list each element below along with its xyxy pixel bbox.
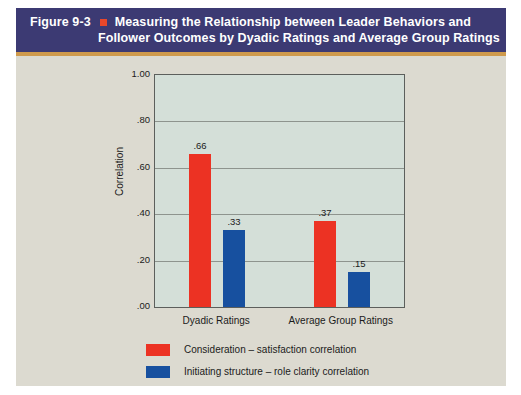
bar-value-label: .66 xyxy=(183,141,217,151)
y-axis-tick-label: .20 xyxy=(110,255,150,265)
legend-label: Consideration – satisfaction correlation xyxy=(184,344,356,356)
x-axis-category-label: Dyadic Ratings xyxy=(146,315,286,327)
bar xyxy=(348,272,370,307)
figure-header-line-2: Follower Outcomes by Dyadic Ratings and … xyxy=(30,30,494,46)
chart-area: Correlation 1.00.80.60.40.20.00 .66.33.3… xyxy=(16,56,506,386)
bar xyxy=(223,230,245,307)
square-bullet-icon xyxy=(100,19,107,26)
legend-item: Consideration – satisfaction correlation xyxy=(146,341,476,359)
figure-root: Figure 9-3 Measuring the Relationship be… xyxy=(0,0,521,395)
y-axis-tick-label: 1.00 xyxy=(110,69,150,79)
y-axis-tick-label: .40 xyxy=(110,208,150,218)
y-axis-tick-labels: 1.00.80.60.40.20.00 xyxy=(106,74,150,308)
legend-item: Initiating structure – role clarity corr… xyxy=(146,363,476,381)
figure-number: Figure 9-3 xyxy=(30,14,91,30)
plot-area: .66.33.37.15 xyxy=(154,74,405,308)
gridline xyxy=(155,121,404,122)
y-axis-tick-label: .00 xyxy=(110,301,150,311)
legend-swatch xyxy=(146,344,170,356)
bar-value-label: .37 xyxy=(308,208,342,218)
figure-title-line-2: Follower Outcomes by Dyadic Ratings and … xyxy=(98,31,500,45)
figure-title-line-1: Measuring the Relationship between Leade… xyxy=(115,14,471,30)
bar xyxy=(314,221,336,307)
chart-legend: Consideration – satisfaction correlation… xyxy=(146,341,476,385)
bar-value-label: .15 xyxy=(342,259,376,269)
legend-swatch xyxy=(146,366,170,378)
y-axis-tick-label: .60 xyxy=(110,162,150,172)
bar xyxy=(189,154,211,307)
x-axis-category-label: Average Group Ratings xyxy=(271,315,411,327)
figure-card: Figure 9-3 Measuring the Relationship be… xyxy=(16,8,506,386)
legend-label: Initiating structure – role clarity corr… xyxy=(184,366,369,378)
y-axis-tick-label: .80 xyxy=(110,115,150,125)
figure-header-line-1: Figure 9-3 Measuring the Relationship be… xyxy=(30,14,494,30)
bar-value-label: .33 xyxy=(217,217,251,227)
figure-header: Figure 9-3 Measuring the Relationship be… xyxy=(16,8,506,52)
